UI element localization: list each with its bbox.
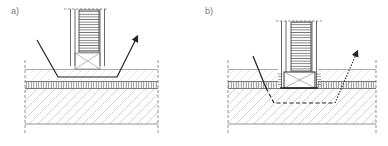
substrate-layer [25, 89, 158, 124]
top-layer [25, 69, 158, 81]
diagram [0, 0, 388, 146]
panel-b [228, 21, 376, 135]
ribbed-layer [25, 82, 158, 88]
ladder-infill [79, 10, 99, 52]
column-b [276, 21, 322, 88]
panel-a [25, 9, 158, 135]
column-a [64, 9, 108, 69]
